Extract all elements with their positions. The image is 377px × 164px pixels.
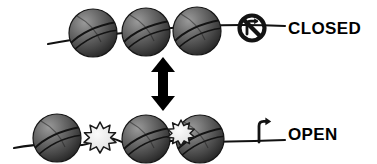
nucleosome-closed-1 <box>69 9 119 57</box>
histone-modification-starburst-1 <box>84 122 116 153</box>
transcription-arrow-icon <box>259 118 271 142</box>
closed-state-group <box>48 7 285 57</box>
double-headed-vertical-arrow <box>151 57 175 111</box>
nucleosome-open-2 <box>122 115 172 163</box>
no-transcription-icon <box>240 16 265 41</box>
nucleosome-closed-2 <box>122 8 172 56</box>
nucleosome-closed-3 <box>173 7 223 55</box>
state-label-closed: CLOSED <box>288 20 361 37</box>
state-label-open: OPEN <box>288 126 338 143</box>
nucleosome-open-1 <box>33 114 83 162</box>
open-state-group <box>14 114 285 163</box>
chromatin-state-figure: CLOSED OPEN <box>0 0 377 164</box>
